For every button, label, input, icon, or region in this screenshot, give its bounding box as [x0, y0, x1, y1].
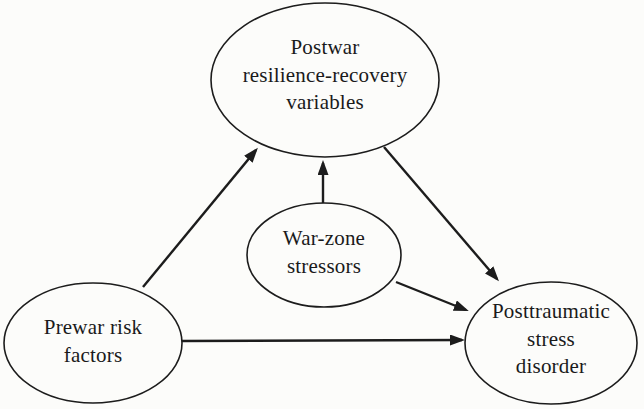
- node-label-war-zone-stressors: War-zone stressors: [283, 225, 365, 280]
- node-label-prewar-risk-factors: Prewar risk factors: [44, 314, 142, 369]
- arrow-prewar-to-postwar: [143, 150, 256, 287]
- arrow-warzone-to-ptsd: [396, 282, 466, 310]
- node-label-posttraumatic-stress-disorder: Posttraumatic stress disorder: [492, 298, 610, 381]
- node-label-postwar-resilience-recovery-variables: Postwar resilience-recovery variables: [243, 34, 408, 117]
- arrow-prewar-to-ptsd: [182, 340, 462, 341]
- diagram-canvas: Postwar resilience-recovery variables Wa…: [0, 0, 644, 409]
